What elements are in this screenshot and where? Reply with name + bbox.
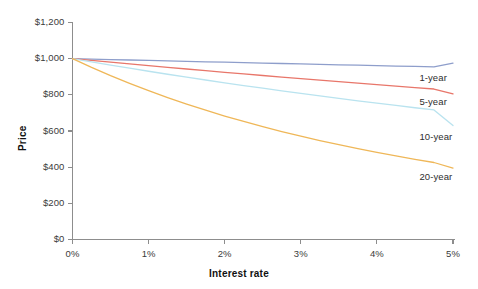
y-axis-title: Price [17, 126, 28, 151]
axis-group [68, 23, 455, 245]
series-lines-group [73, 59, 454, 168]
series-label-5-year: 5-year [419, 96, 447, 107]
y-axis-tick-label: $1,000 [35, 52, 65, 63]
series-label-1-year: 1-year [419, 72, 447, 83]
series-label-20-year: 20-year [419, 171, 452, 182]
y-axis-tick-label: $200 [43, 197, 65, 208]
x-axis-tick-label: 4% [357, 248, 397, 259]
series-line-1-year [73, 59, 454, 67]
y-axis-tick-label: $600 [43, 125, 65, 136]
chart-plot-area [0, 0, 478, 289]
series-label-10-year: 10-year [419, 131, 452, 142]
x-axis-title: Interest rate [0, 268, 478, 279]
series-line-10-year [73, 59, 454, 126]
x-axis-tick-label: 5% [433, 248, 473, 259]
x-axis-tick-label: 0% [53, 248, 93, 259]
y-axis-tick-label: $1,200 [35, 16, 65, 27]
bond-price-vs-interest-rate-chart: $0$200$400$600$800$1,000$1,2000%1%2%3%4%… [0, 0, 478, 289]
y-axis-tick-label: $0 [54, 233, 65, 244]
y-axis-tick-label: $400 [43, 161, 65, 172]
y-axis-tick-label: $800 [43, 88, 65, 99]
x-axis-tick-label: 1% [129, 248, 169, 259]
x-axis-tick-label: 2% [205, 248, 245, 259]
x-axis-tick-label: 3% [281, 248, 321, 259]
